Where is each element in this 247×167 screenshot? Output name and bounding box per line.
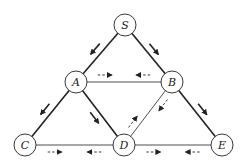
solid-arrow-icon [149,44,158,55]
edge-a-c [25,82,76,145]
graph-diagram: SABCDE [0,0,247,167]
nodes-layer: SABCDE [14,14,233,156]
solid-arrow-icon [198,104,207,115]
edge-b-e [172,82,222,145]
node-d: D [113,134,135,156]
node-s: S [114,14,136,36]
solid-arrow-icon [90,112,98,123]
node-c: C [14,134,36,156]
edges-layer [25,25,222,145]
node-e: E [211,134,233,156]
node-a: A [65,71,87,93]
node-label: D [119,139,129,152]
node-label: E [217,139,226,152]
dashed-arrow-icon [129,116,137,127]
solid-arrow-icon [41,104,50,115]
node-label: A [71,76,80,89]
edge-b-d [124,82,172,145]
node-label: S [121,19,129,32]
graph-svg: SABCDE [0,0,247,167]
node-b: B [161,71,183,93]
dashed-arrow-icon [159,100,167,111]
node-label: B [167,76,176,89]
edge-a-d [76,82,124,145]
solid-arrow-icon [91,44,100,55]
node-label: C [21,139,30,152]
